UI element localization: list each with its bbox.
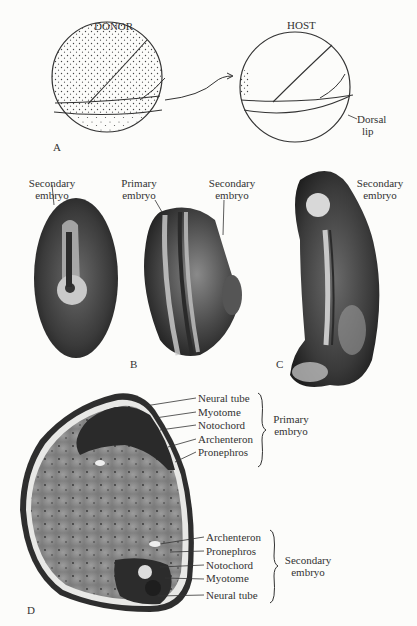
primary-pronephros-label: Pronephros xyxy=(198,446,248,458)
primary-neural-tube-label: Neural tube xyxy=(198,392,250,404)
primary-embryo-label-b: Primary embryo xyxy=(111,177,167,201)
primary-archenteron-label: Archenteron xyxy=(198,433,253,445)
secondary-myotome-label: Myotome xyxy=(206,572,249,584)
dorsal-lip-label-1: Dorsal xyxy=(357,113,386,125)
host-gastrula xyxy=(240,32,357,142)
dorsal-lip-label-2: lip xyxy=(362,125,374,137)
primary-brace xyxy=(258,393,266,467)
donor-gastrula xyxy=(50,20,165,145)
host-label: HOST xyxy=(287,19,316,31)
cross-section-d xyxy=(20,393,194,612)
panel-letter-c: C xyxy=(276,358,283,370)
embryo-b-left xyxy=(34,185,118,358)
embryo-transplant-figure: DONOR HOST Dorsal lip A Secondary embryo… xyxy=(0,0,417,626)
transplant-arrow xyxy=(165,76,232,100)
primary-notochord-label: Notochord xyxy=(198,419,245,431)
embryo-b-right xyxy=(144,200,242,356)
secondary-brace xyxy=(270,530,278,603)
secondary-embryo-label-c: Secondary embryo xyxy=(350,177,410,201)
secondary-embryo-label-b-left: Secondary embryo xyxy=(22,177,82,201)
secondary-notochord-label: Notochord xyxy=(206,559,253,571)
secondary-neural-tube-label: Neural tube xyxy=(206,589,258,601)
secondary-embryo-label-b-right: Secondary embryo xyxy=(202,177,262,201)
donor-label: DONOR xyxy=(94,20,133,32)
embryo-c xyxy=(290,171,379,387)
panel-letter-b: B xyxy=(130,358,137,370)
panel-letter-d: D xyxy=(27,604,35,616)
primary-myotome-label: Myotome xyxy=(198,406,241,418)
secondary-embryo-group-label: Secondary embryo xyxy=(278,554,338,578)
panel-letter-a: A xyxy=(53,141,61,153)
secondary-pronephros-label: Pronephros xyxy=(206,545,256,557)
primary-embryo-group-label: Primary embryo xyxy=(266,413,316,437)
secondary-archenteron-label: Archenteron xyxy=(206,531,261,543)
